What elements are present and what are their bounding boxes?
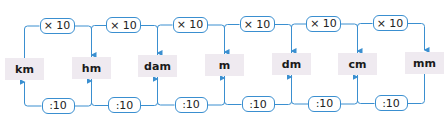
divide-label-m-dam: :10 [175, 97, 208, 113]
multiply-label-hm-dam: × 10 [106, 17, 141, 33]
multiply-label-m-dm: × 10 [240, 16, 275, 32]
multiply-label-km-hm: × 10 [40, 18, 75, 34]
multiply-label-dm-cm: × 10 [306, 16, 341, 32]
unit-m: m [205, 54, 244, 76]
divide-label-hm-km: :10 [42, 98, 75, 114]
unit-conversion-diagram: km hm dam m dm cm mm × 10 × 10 × 10 × 10… [0, 0, 448, 127]
unit-cm: cm [338, 53, 377, 75]
unit-hm: hm [72, 57, 111, 79]
unit-dm: dm [272, 53, 311, 75]
divide-label-dm-m: :10 [242, 96, 275, 112]
unit-mm: mm [405, 52, 444, 74]
multiply-label-dam-m: × 10 [173, 17, 208, 33]
divide-label-dam-hm: :10 [108, 97, 141, 113]
divide-label-cm-dm: :10 [308, 96, 341, 112]
unit-km: km [5, 58, 44, 80]
unit-dam: dam [138, 55, 177, 77]
divide-label-mm-cm: :10 [375, 95, 408, 111]
multiply-label-cm-mm: × 10 [373, 15, 408, 31]
